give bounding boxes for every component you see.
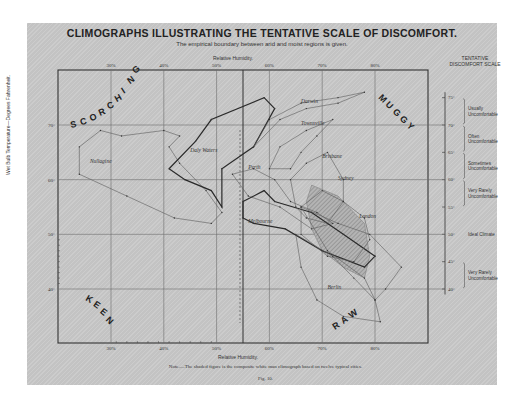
- climograph-nullagine: [79, 130, 222, 223]
- region-label-char: C: [79, 116, 88, 128]
- y-tick-left: 40°: [48, 287, 55, 292]
- x-tick-top: 30%: [106, 63, 115, 68]
- x-tick-top: 50%: [212, 63, 221, 68]
- x-tick-top: 40%: [159, 63, 168, 68]
- scale-tick-label: 50°: [448, 232, 455, 237]
- discomfort-level-label: Very RarelyUncomfortable: [468, 188, 498, 199]
- region-label-char: R: [97, 106, 107, 118]
- region-label-char: C: [105, 99, 116, 111]
- figure-number: Fig. 10.: [0, 376, 531, 381]
- x-tick-bottom: 30%: [106, 346, 115, 351]
- climograph-townsville: [269, 120, 332, 169]
- city-label: Townsville: [301, 120, 325, 126]
- scale-tick-label: 60°: [448, 177, 455, 182]
- scale-tick-label: 55°: [448, 205, 455, 210]
- city-label: Nullagine: [89, 158, 112, 164]
- x-tick-top: 80%: [370, 63, 379, 68]
- region-label-char: E: [98, 306, 109, 318]
- discomfort-level-label: SometimesUncomfortable: [468, 161, 498, 172]
- y-tick-left: 50°: [48, 232, 55, 237]
- region-label-char: Y: [405, 121, 416, 132]
- climograph-plot: 30%30%40%40%50%50%60%60%70%70%80%80%40°5…: [0, 0, 531, 411]
- discomfort-level-label: Ideal Climate: [468, 232, 495, 237]
- discomfort-level-label: UsuallyUncomfortable: [468, 106, 498, 117]
- discomfort-level-label: OftenUncomfortable: [468, 134, 498, 145]
- city-label: Berlin: [327, 284, 341, 290]
- x-tick-bottom: 60%: [265, 346, 274, 351]
- region-label-char: W: [347, 307, 360, 320]
- city-label: Daly Waters: [189, 147, 217, 153]
- city-label: Sydney: [338, 175, 354, 181]
- x-tick-bottom: 50%: [212, 346, 221, 351]
- figure-note: Note.—The shaded figure is the composite…: [0, 364, 531, 369]
- scale-tick-label: 45°: [448, 259, 455, 264]
- city-label: Perth: [247, 164, 260, 170]
- y-tick-left: 70°: [48, 123, 55, 128]
- city-label: Darwin: [300, 98, 318, 104]
- x-tick-bottom: 80%: [370, 346, 379, 351]
- city-label: Melbourne: [247, 218, 273, 224]
- region-label-char: N: [104, 314, 116, 326]
- region-label-char: E: [92, 299, 103, 311]
- city-label: Brisbane: [322, 153, 342, 159]
- region-label-char: H: [113, 92, 124, 104]
- region-label-char: O: [88, 111, 98, 123]
- scale-tick-label: 75°: [448, 95, 455, 100]
- x-tick-bottom: 40%: [159, 346, 168, 351]
- discomfort-level-label: Very RarelyUncomfortable: [468, 270, 498, 281]
- scale-tick-label: 70°: [448, 123, 455, 128]
- region-label-char: N: [125, 74, 136, 86]
- region-label-char: S: [69, 119, 77, 130]
- x-tick-bottom: 70%: [318, 346, 327, 351]
- y-tick-left: 60°: [48, 178, 55, 183]
- climograph-daly-waters: [169, 98, 275, 207]
- x-tick-top: 70%: [318, 63, 327, 68]
- region-label-char: G: [130, 63, 142, 75]
- x-tick-top: 60%: [265, 63, 274, 68]
- scale-tick-label: 40°: [448, 287, 455, 292]
- city-label: London: [358, 213, 376, 219]
- region-label-char: I: [119, 86, 127, 96]
- scale-tick-label: 65°: [448, 150, 455, 155]
